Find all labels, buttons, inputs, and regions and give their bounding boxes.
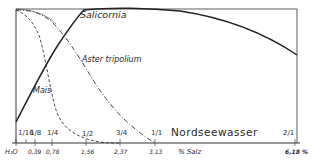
tick-6-18: 6,18 % xyxy=(285,148,308,155)
series-aster-tripolium-line xyxy=(16,10,155,143)
tick-2-37: 2,37 xyxy=(114,148,128,155)
x-axis-unit-label: % Salz xyxy=(178,148,202,156)
frac-2-1: 2/1 xyxy=(283,129,294,137)
tick-0-78: 0,78 xyxy=(46,148,60,155)
tick-3-13: 3,13 xyxy=(149,148,163,155)
series-salicornia-line xyxy=(16,8,297,122)
frac-3-4: 3/4 xyxy=(116,129,128,137)
label-aster-tripolium: Aster tripolium xyxy=(81,55,142,64)
tick-1-56: 1,56 xyxy=(81,148,95,155)
label-mais: Mais xyxy=(33,86,51,95)
frac-1-2: 1/2 xyxy=(82,130,93,138)
series-aster-tripolium-upper-line xyxy=(16,9,56,24)
plot-frame xyxy=(12,9,300,143)
tick-0-39: 0,39 xyxy=(28,148,42,155)
frac-1-8: 1/8 xyxy=(30,129,41,137)
salt-tolerance-chart: Salicornia Aster tripolium Mais 1/16 1/8… xyxy=(0,0,324,162)
x-tick-labels: H₂O 0,39 0,78 1,56 2,37 3,13 % Salz 6,18… xyxy=(5,148,308,156)
tick-h2o: H₂O xyxy=(5,148,18,156)
label-salicornia: Salicornia xyxy=(80,9,127,20)
frac-1-1: 1/1 xyxy=(151,129,162,137)
annotation-nordseewasser: Nordseewasser xyxy=(171,126,258,138)
frac-1-4: 1/4 xyxy=(47,129,59,137)
